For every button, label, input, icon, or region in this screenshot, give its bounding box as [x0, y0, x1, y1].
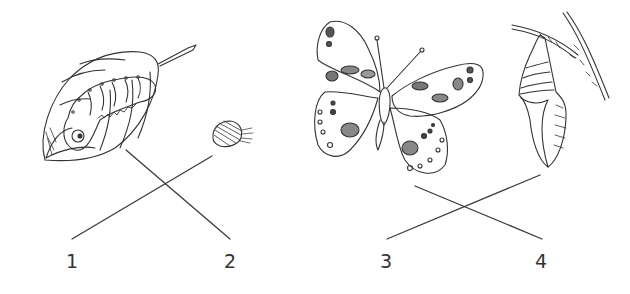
caterpillar-on-leaf-illustration [43, 45, 196, 161]
chrysalis-icon [519, 35, 566, 167]
connector-butterfly-to-4 [415, 186, 542, 239]
label-3: 3 [380, 252, 392, 271]
label-2: 2 [224, 252, 236, 271]
connector-chrysalis-to-3 [387, 175, 540, 239]
label-4: 4 [535, 252, 547, 271]
connector-egg-to-1 [72, 156, 212, 239]
chrysalis-illustration [512, 12, 609, 167]
egg-illustration [213, 121, 253, 147]
egg-icon [213, 121, 253, 147]
connector-caterpillar-to-2 [126, 150, 230, 239]
connector-lines [72, 150, 542, 239]
butterfly-icon [315, 21, 483, 173]
label-1: 1 [66, 252, 78, 271]
life-cycle-diagram: 1 2 3 4 [0, 0, 630, 294]
butterfly-illustration [315, 21, 483, 173]
leaf-icon [43, 45, 196, 161]
